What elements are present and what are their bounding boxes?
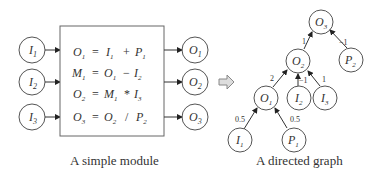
input-node-i1: I1 [19,37,45,63]
edge-label-p2-o3: −1 [339,38,348,47]
graph-node-o3: O3 [309,10,333,34]
svg-text:I2: I2 [28,75,37,91]
directed-graph-caption: A directed graph [256,153,343,169]
svg-text:I2: I2 [294,91,303,107]
edge-o1-o2 [273,70,287,87]
svg-text:I3: I3 [28,110,37,126]
svg-text:P1: P1 [287,133,299,149]
svg-text:O1: O1 [189,43,202,59]
transform-arrow-icon [219,75,234,89]
graph-node-i1: I1 [228,128,252,152]
graph-node-i2: I2 [287,86,311,110]
input-node-i3: I3 [19,104,45,130]
svg-text:O3: O3 [315,15,328,31]
svg-text:I3: I3 [320,91,329,107]
edge-label-o1-o2: 2 [270,74,274,83]
graph-node-p1: P1 [282,128,306,152]
output-node-o3: O3 [182,104,208,130]
edge-label-p1-o1: 0.5 [290,115,300,124]
graph-node-o1: O1 [254,86,278,110]
svg-text:O1: O1 [260,91,272,107]
output-node-o1: O1 [182,37,208,63]
edge-label-i1-o1: 0.5 [235,115,245,124]
edge-i1-o1 [244,108,257,129]
output-node-o2: O2 [182,69,208,95]
svg-text:O2: O2 [292,54,305,70]
svg-text:O2: O2 [189,75,202,91]
edge-label-o2-o3: 1 [302,37,306,46]
svg-text:I1: I1 [235,133,244,149]
svg-text:O3: O3 [189,110,202,126]
simple-module-caption: A simple module [70,153,159,169]
input-node-i2: I2 [19,69,45,95]
edge-label-i3-o2: 1 [322,75,326,84]
edge-p1-o1 [275,108,287,128]
svg-text:I1: I1 [28,43,37,59]
edge-label-i2-o2: −1 [299,76,308,85]
diagram-canvas: I1 I2 I3 O1 = I1 + P1 M1 = O1 − I2 O2 = [0,0,379,175]
svg-text:P2: P2 [344,53,356,69]
graph-node-i3: I3 [313,86,337,110]
graph-node-p2: P2 [339,48,363,72]
edge-i3-o2 [308,71,320,86]
graph-node-o2: O2 [286,49,310,73]
